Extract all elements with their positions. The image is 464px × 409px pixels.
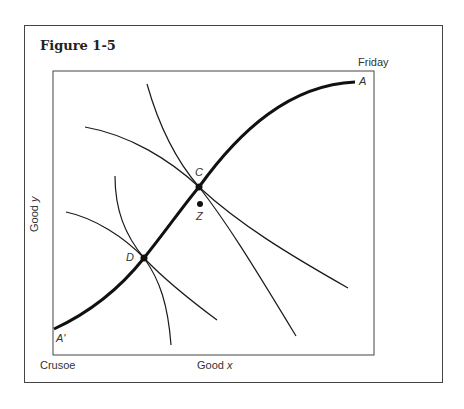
- y-axis-label: Good y: [28, 197, 40, 232]
- contract-curve: [54, 82, 355, 329]
- y-axis-label-text: Good: [28, 202, 40, 232]
- point-d-label: D: [126, 251, 134, 263]
- crusoe-origin-label: Crusoe: [40, 359, 75, 371]
- edgeworth-box-diagram: [0, 0, 464, 409]
- y-axis-label-var: y: [28, 197, 40, 203]
- point-c-marker: [196, 184, 203, 191]
- x-axis-label-text: Good: [197, 359, 227, 371]
- point-d-marker: [141, 255, 148, 262]
- friday-origin-label: Friday: [358, 56, 389, 68]
- point-z-marker: [197, 201, 203, 207]
- point-z-label: Z: [196, 210, 203, 222]
- x-axis-label-var: x: [227, 359, 233, 371]
- point-a-prime-label: A': [56, 332, 65, 344]
- indifference-curve-c-flat: [85, 127, 348, 288]
- x-axis-label: Good x: [197, 359, 232, 371]
- edgeworth-box: [53, 71, 374, 355]
- indifference-curve-d-flat: [66, 212, 217, 320]
- point-c-label: C: [195, 166, 203, 178]
- point-a-label: A: [359, 75, 366, 87]
- indifference-curve-c-steep: [147, 84, 296, 336]
